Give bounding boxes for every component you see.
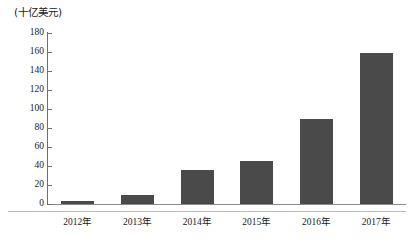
y-axis-tick-label: 40 bbox=[4, 161, 44, 171]
x-axis-label: 2012年 bbox=[48, 216, 108, 228]
y-axis-tick-label: 140 bbox=[4, 66, 44, 76]
y-axis-tick-label: 80 bbox=[4, 123, 44, 133]
y-axis-unit-caption: (十亿美元) bbox=[14, 6, 62, 19]
y-axis-tick-label: 120 bbox=[4, 85, 44, 95]
baseline-rule bbox=[8, 211, 406, 212]
x-axis-label: 2013年 bbox=[108, 216, 168, 228]
y-axis-tick-label: 100 bbox=[4, 104, 44, 114]
bar bbox=[300, 119, 333, 204]
y-axis-tick-label: 60 bbox=[4, 142, 44, 152]
y-axis-tick bbox=[48, 204, 52, 205]
plot-area bbox=[48, 33, 406, 204]
y-axis-tick-label: 180 bbox=[4, 28, 44, 38]
bar bbox=[61, 201, 94, 204]
y-axis-tick-label: 20 bbox=[4, 180, 44, 190]
y-axis-tick-label: 0 bbox=[4, 199, 44, 209]
y-axis-tick-label: 160 bbox=[4, 47, 44, 57]
x-axis-label: 2014年 bbox=[167, 216, 227, 228]
bar bbox=[181, 170, 214, 204]
x-axis-label: 2017年 bbox=[346, 216, 406, 228]
bar bbox=[240, 161, 273, 204]
x-axis-line bbox=[48, 204, 406, 205]
bar bbox=[360, 53, 393, 204]
bar bbox=[121, 195, 154, 204]
bar-chart-figure: (十亿美元) 020406080100120140160180 2012年201… bbox=[0, 0, 412, 248]
x-axis-label: 2015年 bbox=[227, 216, 287, 228]
x-axis-label: 2016年 bbox=[287, 216, 347, 228]
